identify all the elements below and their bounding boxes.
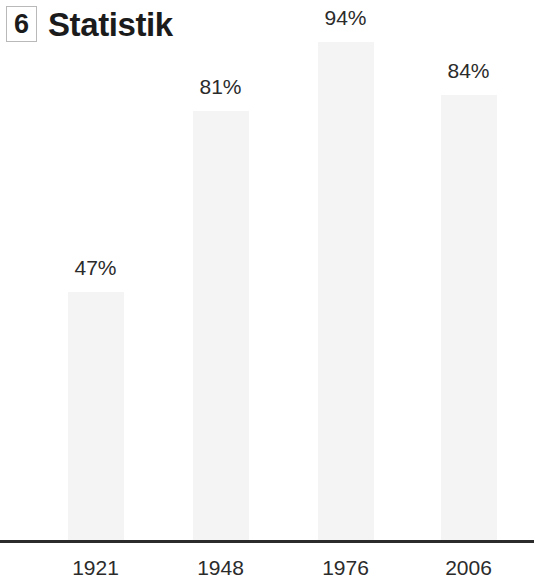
bar-category-label: 1921 — [72, 557, 119, 578]
bar-value-label: 84% — [447, 60, 489, 81]
bar-category-label: 1948 — [197, 557, 244, 578]
bar-category-label: 1976 — [322, 557, 369, 578]
bar — [441, 95, 497, 541]
bar-group-1976: 94% 1976 — [283, 0, 408, 580]
bar-chart: 47% 1921 81% 1948 94% 1976 84% 2006 — [0, 0, 534, 580]
bar — [193, 111, 249, 541]
bar-value-label: 47% — [74, 257, 116, 278]
bar-category-label: 2006 — [445, 557, 492, 578]
bar-value-label: 94% — [324, 7, 366, 28]
bar — [318, 42, 374, 541]
bar-group-1921: 47% 1921 — [33, 0, 158, 580]
bar-group-1948: 81% 1948 — [158, 0, 283, 580]
bar — [68, 292, 124, 542]
bar-group-2006: 84% 2006 — [406, 0, 531, 580]
bar-value-label: 81% — [199, 76, 241, 97]
x-axis-line — [0, 540, 534, 543]
